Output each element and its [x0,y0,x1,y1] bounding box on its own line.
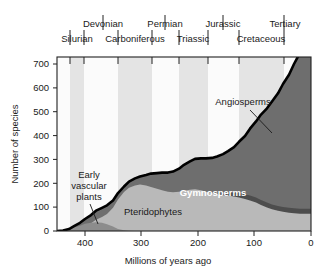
y-tick-600: 600 [33,82,49,93]
period-label-jurassic: Jurassic [206,18,241,29]
period-label-devonian: Devonian [83,18,123,29]
y-axis-ticks [53,64,57,231]
period-label-tertiary: Tertiary [269,18,300,29]
y-tick-400: 400 [33,130,49,141]
chart-figure: Devonian Permian Jurassic Tertiary Silur… [0,0,320,275]
x-tick-0: 0 [308,237,313,248]
x-tick-200: 200 [190,237,206,248]
x-tick-400: 400 [77,237,93,248]
plant-diversity-area-chart: Devonian Permian Jurassic Tertiary Silur… [0,0,320,275]
y-tick-200: 200 [33,178,49,189]
period-label-carboniferous: Carboniferous [105,33,165,44]
y-tick-700: 700 [33,58,49,69]
annotation-early-vascular-line2: vascular [71,180,106,191]
annotation-pteridophytes: Pteridophytes [124,206,182,217]
y-tick-500: 500 [33,106,49,117]
x-tick-100: 100 [246,237,262,248]
x-axis-ticks [85,231,311,236]
annotation-early-vascular-line3: plants [76,191,102,202]
y-tick-0: 0 [44,225,49,236]
y-tick-100: 100 [33,201,49,212]
period-label-triassic: Triassic [177,33,210,44]
annotation-gymnosperms: Gymnosperms [180,187,247,198]
annotation-early-vascular-line1: Early [78,169,100,180]
period-label-permian: Permian [147,18,182,29]
band-silurian [70,57,84,231]
x-axis-title: Millions of years ago [125,255,212,266]
period-label-silurian: Silurian [61,33,93,44]
y-axis-title: Number of species [9,104,20,183]
period-label-cretaceous: Cretaceous [237,33,286,44]
annotation-angiosperms: Angiosperms [215,96,271,107]
y-tick-300: 300 [33,154,49,165]
x-tick-300: 300 [133,237,149,248]
